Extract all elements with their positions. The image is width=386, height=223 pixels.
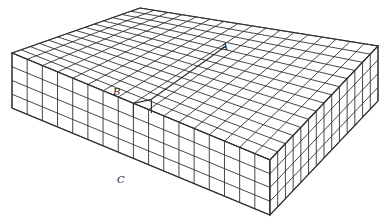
crystal-block-diagram xyxy=(0,0,386,223)
label-a: A xyxy=(221,41,228,52)
label-c: C xyxy=(117,174,125,185)
label-b: B xyxy=(113,86,120,97)
